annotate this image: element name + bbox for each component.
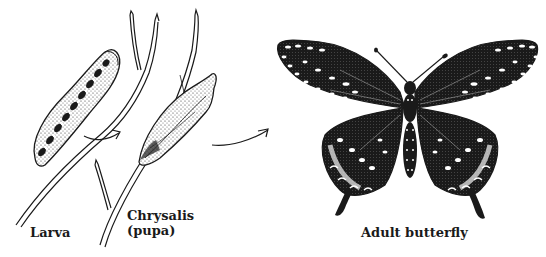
chrysalis-label: Chrysalis (pupa) [127, 208, 194, 238]
larva-label: Larva [30, 225, 70, 240]
adult-butterfly-label: Adult butterfly [361, 225, 468, 240]
larva-caterpillar [34, 50, 120, 166]
larva-twig [16, 11, 159, 227]
life-cycle-diagram: Larva Chrysalis (pupa) Adult butterfly [0, 0, 546, 257]
adult-butterfly [278, 40, 539, 219]
chrysalis-label-line1: Chrysalis [127, 208, 194, 223]
arrow-right-icon [84, 130, 120, 140]
arrow-right-icon [212, 129, 268, 145]
chrysalis-pupa [139, 74, 216, 166]
chrysalis-label-line2: (pupa) [127, 223, 194, 238]
